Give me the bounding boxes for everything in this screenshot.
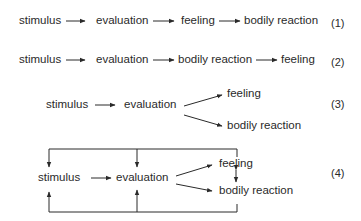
node-2-bodily-reaction: bodily reaction bbox=[178, 53, 252, 66]
node-4-feeling: feeling bbox=[219, 157, 253, 170]
node-3-feeling: feeling bbox=[227, 87, 261, 100]
node-1-stimulus: stimulus bbox=[19, 14, 61, 27]
model-number-3: (3) bbox=[331, 98, 344, 111]
feedback-bottom-line bbox=[49, 192, 237, 212]
node-2-evaluation: evaluation bbox=[96, 53, 148, 66]
model-number-1: (1) bbox=[331, 17, 344, 30]
node-3-stimulus: stimulus bbox=[46, 98, 88, 111]
arrow-3-evaluation-feeling bbox=[184, 95, 222, 106]
node-1-evaluation: evaluation bbox=[96, 14, 148, 27]
node-4-stimulus: stimulus bbox=[38, 171, 80, 184]
node-4-evaluation: evaluation bbox=[116, 171, 168, 184]
node-3-bodily-reaction: bodily reaction bbox=[227, 119, 301, 132]
node-3-evaluation: evaluation bbox=[124, 98, 176, 111]
arrow-4-evaluation-feeling bbox=[176, 165, 212, 176]
feedback-top-line bbox=[49, 149, 237, 167]
arrow-4-evaluation-bodily bbox=[176, 184, 212, 191]
model-number-2: (2) bbox=[331, 56, 344, 69]
node-2-stimulus: stimulus bbox=[19, 53, 61, 66]
node-1-bodily-reaction: bodily reaction bbox=[244, 14, 318, 27]
node-1-feeling: feeling bbox=[181, 14, 215, 27]
node-4-bodily-reaction: bodily reaction bbox=[219, 184, 293, 197]
model-number-4: (4) bbox=[331, 167, 344, 180]
arrow-3-evaluation-bodily bbox=[184, 115, 222, 126]
node-2-feeling: feeling bbox=[281, 53, 315, 66]
